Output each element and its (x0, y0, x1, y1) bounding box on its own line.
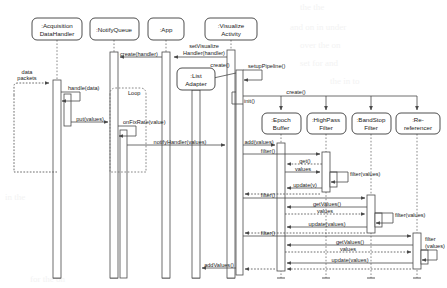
activation-bandstop-self (375, 213, 382, 227)
message-label-add-values: add(values) (244, 139, 273, 145)
message-label-setup-pipeline: setupPipeline() (248, 63, 285, 69)
participant-label-bandstop-line2: Filter (364, 124, 378, 131)
participant-label-visualize-line1: :Visualize (218, 22, 245, 29)
message-label-values-re-referencer: values (340, 246, 356, 252)
message-label-filter-re-ref-2: (values) (425, 243, 445, 249)
message-label-filter-re-ref-1: filter (425, 236, 436, 242)
participant-label-re-referencer-line2: referencer (404, 124, 432, 131)
participant-label-epoch-buffer-line1: :Epoch (271, 116, 291, 123)
participant-label-epoch-buffer-line2: Buffer (273, 124, 289, 131)
message-create-handler: create(handler) (120, 51, 162, 58)
participant-app[interactable]: :App (148, 18, 184, 40)
message-label-add-values-list: addValues() (204, 262, 234, 268)
activation-highpass-filter (322, 152, 330, 192)
participant-label-bandstop-line1: :BandStop (357, 116, 386, 123)
data-packets-label-line2: packets (17, 75, 36, 81)
message-label-set-visualize-handler-1: setVisualize (189, 43, 219, 49)
message-label-values-highpass: values (295, 166, 311, 172)
participant-label-app: :App (160, 26, 173, 33)
message-label-notify-handler: notifyHandler(values) (154, 139, 207, 145)
activation-re-referencer-self (421, 250, 428, 264)
activation-bandstop-filter (367, 195, 375, 233)
message-label-filter-re-referencer: filter() (261, 230, 275, 236)
participant-label-visualize-line2: Activity (221, 30, 242, 37)
message-label-filter-values-highpass: filter(values) (350, 171, 381, 177)
activation-visualize-self (236, 70, 243, 275)
activation-epoch-buffer (277, 143, 285, 271)
message-label-create-list-adapter: create() (210, 62, 229, 68)
activation-list-adapter (192, 90, 200, 278)
message-label-set-visualize-handler-2: Handler(handler) (183, 50, 225, 56)
message-label-put-values: put(values) (76, 116, 104, 122)
message-label-filter-values-bandstop: filter(values) (395, 212, 426, 218)
message-label-create-handler: create(handler) (120, 51, 158, 57)
participant-label-acquisition-line2: DataHandler (40, 30, 75, 37)
participant-list-adapter[interactable]: :List Adapter (177, 68, 215, 90)
message-label-filter-bandstop: filter() (261, 192, 275, 198)
message-label-get-values-bandstop: getValues() (313, 201, 341, 207)
activation-notify-queue (110, 52, 118, 278)
svg-text:in the: in the (5, 192, 25, 202)
participant-label-re-referencer-line1: :Re- (412, 116, 424, 123)
participant-highpass-filter[interactable]: :HighPass Filter (307, 113, 346, 134)
activation-acquisition-self (64, 94, 71, 126)
message-label-init: init() (244, 98, 255, 104)
activation-visualize (227, 50, 235, 278)
message-label-on-fix-rate: onFixRate(value) (123, 119, 166, 125)
message-label-update-v: update(v) (293, 182, 317, 188)
loop-fragment-label: Loop (128, 90, 140, 96)
message-label-update-values-re-referencer: update(values) (331, 257, 368, 263)
activation-acquisition (53, 80, 61, 278)
participant-label-highpass-line2: Filter (319, 124, 333, 131)
svg-text:the in to: the in to (330, 76, 360, 86)
message-label-values-bandstop: values (317, 208, 333, 214)
participant-label-notify-queue: :NotifyQueue (96, 26, 133, 33)
message-label-create-pipeline: create() (286, 89, 305, 95)
message-label-get-values-re-referencer: getValues() (336, 239, 364, 245)
participant-label-highpass-line1: :HighPass (312, 116, 340, 123)
message-add-values-list: addValues() (202, 262, 236, 269)
sequence-diagram-canvas: the the and on in under over the on set … (0, 0, 447, 288)
svg-text:over the on: over the on (300, 40, 341, 50)
activation-notify-queue-self (120, 130, 127, 278)
message-label-handle-data: handle(data) (68, 85, 100, 91)
svg-text:set for and: set for and (300, 58, 338, 68)
message-put-values: put(values) (71, 116, 108, 123)
participant-visualize-activity[interactable]: :Visualize Activity (205, 18, 257, 40)
activation-app (162, 52, 170, 278)
svg-text:and on in under: and on in under (290, 22, 346, 32)
participant-epoch-buffer[interactable]: :Epoch Buffer (262, 113, 301, 134)
activation-highpass-self (330, 172, 337, 187)
message-label-update-values-bandstop: update(values) (308, 221, 345, 227)
participant-label-acquisition-line1: :Acquisition (41, 22, 73, 29)
participant-bandstop-filter[interactable]: :BandStop Filter (352, 113, 391, 134)
message-update-v: update(v) (287, 182, 322, 189)
svg-text:the the: the the (300, 2, 324, 12)
participant-notify-queue[interactable]: :NotifyQueue (90, 18, 139, 40)
activation-re-referencer (413, 233, 421, 269)
message-label-get: get() (299, 158, 311, 164)
participant-label-list-adapter-line1: :List (190, 72, 202, 79)
participant-label-list-adapter-line2: Adapter (185, 80, 207, 87)
message-add-values: add(values) (243, 139, 275, 146)
message-label-filter-highpass: filter() (261, 148, 275, 154)
participant-re-referencer[interactable]: :Re- referencer (396, 113, 440, 134)
participant-acquisition-data-handler[interactable]: :Acquisition DataHandler (32, 18, 82, 40)
